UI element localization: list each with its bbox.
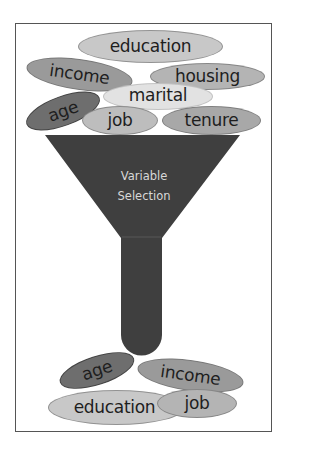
funnel-label: Variable Selection — [92, 166, 196, 206]
funnel-label-line1: Variable — [92, 166, 196, 186]
input-variable-job: job — [82, 106, 158, 135]
funnel-label-line2: Selection — [92, 186, 196, 206]
input-variable-tenure: tenure — [162, 106, 261, 135]
input-variable-education: education — [78, 30, 223, 63]
selected-variable-job: job — [157, 389, 237, 418]
